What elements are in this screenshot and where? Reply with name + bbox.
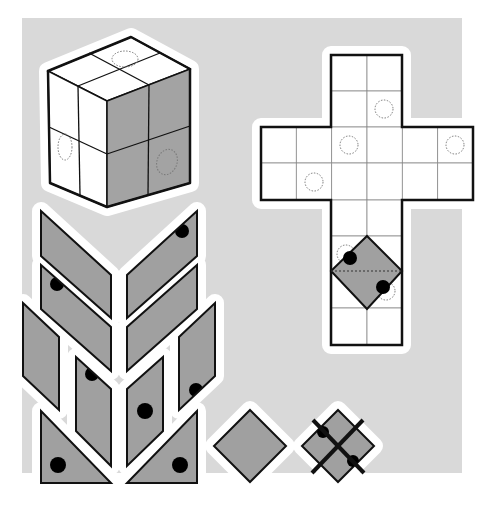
net-cell [367,55,402,91]
black-dot [137,403,153,419]
net-cell [332,127,367,163]
net-cell [332,163,367,200]
puzzle-diagram [0,0,490,508]
net-cell [367,163,402,200]
net-cell [367,91,402,127]
net-cell [332,91,367,127]
net-cell [367,200,402,236]
net-cell [402,163,437,200]
net-cell [402,127,437,163]
black-dot [172,457,188,473]
net-cell [367,127,402,163]
net-cell [332,308,367,345]
net-cell [261,163,296,200]
net-cell [438,127,473,163]
net-cell [438,163,473,200]
net-cell [332,55,367,91]
net-cell [332,200,367,236]
black-dot [50,457,66,473]
net-cell [296,163,331,200]
net-cell [296,127,331,163]
net-cell [367,308,402,345]
net-cell [261,127,296,163]
isometric-cube [48,37,190,207]
diagram-canvas [0,0,490,508]
black-dot [376,280,390,294]
crossed-diamond [302,410,374,482]
black-dot [343,251,357,265]
